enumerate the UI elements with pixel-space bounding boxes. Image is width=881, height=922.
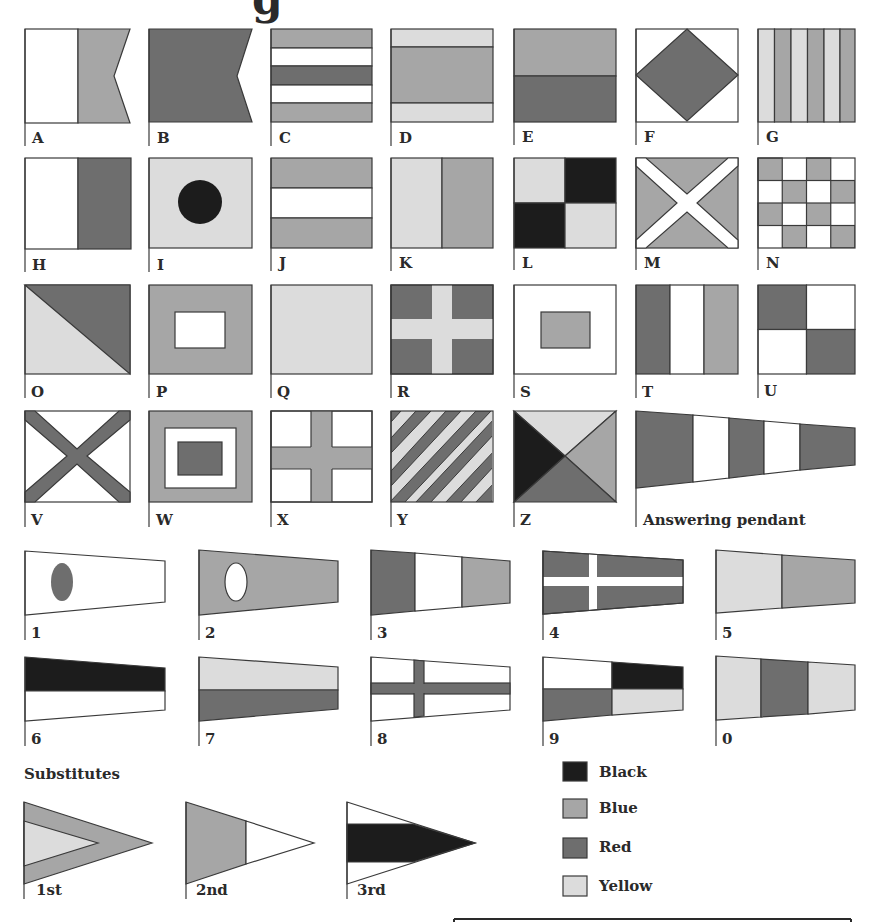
pennant-label: 4 <box>549 624 559 642</box>
pennant-6: 6 <box>25 657 165 748</box>
flag-j: J <box>271 158 372 272</box>
legend-item-yellow: Yellow <box>563 876 653 896</box>
flag-d: D <box>391 29 493 147</box>
substitute-2nd: 2nd <box>186 802 314 899</box>
legend-label: Blue <box>599 799 638 817</box>
flag-a: A <box>25 29 130 147</box>
legend-label: Yellow <box>598 877 653 895</box>
flag-p: P <box>149 285 252 401</box>
flag-t: T <box>636 285 738 401</box>
flag-label: O <box>31 383 44 401</box>
flag-w: W <box>149 411 252 529</box>
color-legend: Black Blue Red Yellow <box>563 762 653 896</box>
pennant-label: 9 <box>549 730 559 748</box>
flag-label: L <box>522 254 533 272</box>
flag-label: J <box>277 254 286 272</box>
substitutes-heading: Substitutes <box>24 765 120 783</box>
signal-flags-chart: g A B C D E F <box>0 0 881 922</box>
flag-label: V <box>30 511 43 529</box>
flag-label: T <box>642 383 654 401</box>
flag-label: A <box>31 129 44 147</box>
flag-f: F <box>636 29 738 146</box>
flag-m: M <box>636 158 738 272</box>
pennant-label: 8 <box>377 730 387 748</box>
flag-c: C <box>271 29 372 147</box>
flag-y: Y <box>389 411 495 529</box>
substitute-1st: 1st <box>24 802 152 899</box>
pennant-1: 1 <box>25 551 165 642</box>
flag-label: H <box>32 256 46 274</box>
flag-label: E <box>522 128 533 146</box>
pennant-label: 6 <box>31 730 41 748</box>
substitute-label: 2nd <box>196 881 228 899</box>
flag-l: L <box>514 158 616 272</box>
pennant-label: 0 <box>722 730 732 748</box>
flag-label: F <box>644 128 655 146</box>
pennant-label: 3 <box>377 624 387 642</box>
flag-label: G <box>766 128 779 146</box>
pennant-5: 5 <box>716 550 855 642</box>
legend-item-black: Black <box>563 762 647 781</box>
flag-label: C <box>279 129 291 147</box>
black-swatch-icon <box>563 762 587 781</box>
flag-i: I <box>149 158 252 274</box>
flag-b: B <box>149 29 252 147</box>
flag-label: I <box>157 256 164 274</box>
flag-label: K <box>399 254 413 272</box>
flag-q: Q <box>271 285 372 401</box>
flag-label: R <box>397 383 410 401</box>
flag-label: M <box>644 254 661 272</box>
substitute-3rd: 3rd <box>347 802 475 899</box>
flag-label: X <box>277 511 289 529</box>
flag-label: Z <box>520 511 531 529</box>
pennant-label: 2 <box>205 624 215 642</box>
flag-h: H <box>25 158 131 274</box>
flag-label: Q <box>277 383 290 401</box>
legend-item-blue: Blue <box>563 799 638 818</box>
pennant-2: 2 <box>199 550 338 642</box>
pennant-label: 1 <box>31 624 41 642</box>
flag-label: P <box>156 383 167 401</box>
pennant-7: 7 <box>199 657 338 748</box>
substitute-label: 1st <box>36 881 62 899</box>
legend-label: Red <box>599 838 632 856</box>
pennant-4: 4 <box>543 551 683 642</box>
flag-label: Y <box>396 511 408 529</box>
flag-k: K <box>391 158 493 272</box>
flag-label: U <box>764 382 777 400</box>
title-fragment: g <box>252 0 283 24</box>
answering-pendant-label: Answering pendant <box>642 511 806 529</box>
flag-label: N <box>766 254 780 272</box>
pennant-0: 0 <box>716 656 855 748</box>
flag-n: N <box>758 158 855 272</box>
flag-label: D <box>399 129 412 147</box>
flag-x: X <box>271 411 372 529</box>
flag-r: R <box>391 285 493 401</box>
yellow-swatch-icon <box>563 876 587 896</box>
substitute-label: 3rd <box>357 881 386 899</box>
legend-label: Black <box>599 763 647 781</box>
blue-swatch-icon <box>563 799 587 818</box>
flag-e: E <box>514 29 616 146</box>
pennant-3: 3 <box>371 550 510 642</box>
pennant-9: 9 <box>543 657 683 748</box>
legend-item-red: Red <box>563 838 632 858</box>
flag-s: S <box>514 285 616 401</box>
flag-label: S <box>520 383 531 401</box>
pennant-label: 5 <box>722 624 732 642</box>
flag-u: U <box>758 285 855 400</box>
flag-g: G <box>758 29 855 146</box>
pennant-8: 8 <box>371 657 510 748</box>
flag-label: W <box>155 511 174 529</box>
flag-o: O <box>25 285 130 401</box>
pennant-label: 7 <box>205 730 215 748</box>
flag-label: B <box>157 129 170 147</box>
flag-v: V <box>25 411 130 529</box>
flag-z: Z <box>514 411 616 529</box>
answering-pendant: Answering pendant <box>636 411 855 529</box>
red-swatch-icon <box>563 838 587 858</box>
